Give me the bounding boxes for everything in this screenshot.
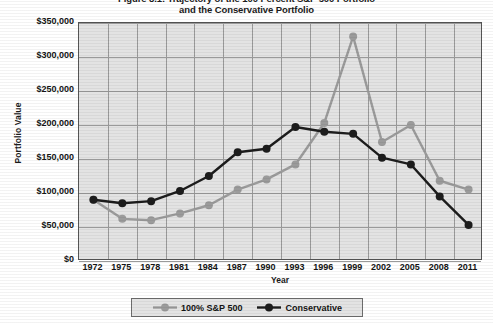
data-point: 100% S&P 500 1993: 142000 xyxy=(291,160,299,168)
chart-title-line-2: and the Conservative Portfolio xyxy=(0,4,493,15)
data-point: Conservative 1987: 160000 xyxy=(234,148,242,156)
y-axis-tick-label: $350,000 xyxy=(2,16,74,26)
chart-title: Figure 8.1: Trajectory of the 100 Percen… xyxy=(0,0,493,15)
data-point: 100% S&P 500 1990: 120000 xyxy=(263,175,271,183)
series-conservative: Conservative 1972: 90000Conservative 197… xyxy=(89,123,472,229)
data-point: 100% S&P 500 1996: 203000 xyxy=(320,119,328,127)
legend-swatch-icon xyxy=(256,302,282,313)
data-point: 100% S&P 500 1987: 105000 xyxy=(234,186,242,194)
series-100-s-p-500: 100% S&P 500 1972: 90000100% S&P 500 197… xyxy=(89,33,472,225)
series-line xyxy=(93,127,468,225)
data-point: Conservative 1999: 187000 xyxy=(349,130,357,138)
y-axis-tick-label: $150,000 xyxy=(2,152,74,162)
data-point: Conservative 2002: 152000 xyxy=(378,154,386,162)
data-point: 100% S&P 500 1975: 62000 xyxy=(118,215,126,223)
y-axis-tick-label: $300,000 xyxy=(2,50,74,60)
data-point: 100% S&P 500 1978: 60000 xyxy=(147,216,155,224)
data-point: Conservative 2008: 95000 xyxy=(436,192,444,200)
legend-label: 100% S&P 500 xyxy=(181,303,242,313)
data-series-layer: 100% S&P 500 1972: 90000100% S&P 500 197… xyxy=(79,23,483,261)
chart-figure: Figure 8.1: Trajectory of the 100 Percen… xyxy=(0,0,493,323)
y-axis-tick-label: $50,000 xyxy=(2,220,74,230)
data-point: Conservative 1990: 165000 xyxy=(263,145,271,153)
data-point: 100% S&P 500 1981: 70000 xyxy=(176,209,184,217)
data-point: Conservative 1996: 190000 xyxy=(320,128,328,136)
x-axis-title: Year xyxy=(78,275,482,285)
data-point: Conservative 1975: 85000 xyxy=(118,199,126,207)
data-point: 100% S&P 500 1984: 82000 xyxy=(205,201,213,209)
data-point: Conservative 2011: 53000 xyxy=(465,221,473,229)
legend-item[interactable]: Conservative xyxy=(256,302,342,313)
legend-swatch-icon xyxy=(152,302,178,313)
data-point: Conservative 1978: 88000 xyxy=(147,197,155,205)
data-point: 100% S&P 500 2011: 105000 xyxy=(465,186,473,194)
y-axis-tick-label: $250,000 xyxy=(2,84,74,94)
chart-legend: 100% S&P 500Conservative xyxy=(131,298,363,317)
plot-area: 100% S&P 500 1972: 90000100% S&P 500 197… xyxy=(78,22,482,260)
data-point: Conservative 1972: 90000 xyxy=(89,196,97,204)
x-axis-tick-label: 2011 xyxy=(448,262,488,272)
data-point: 100% S&P 500 2005: 200000 xyxy=(407,121,415,129)
y-axis-tick-label: $200,000 xyxy=(2,118,74,128)
data-point: 100% S&P 500 2002: 175000 xyxy=(378,138,386,146)
y-axis-tick-label: $100,000 xyxy=(2,186,74,196)
data-point: Conservative 1981: 103000 xyxy=(176,187,184,195)
data-point: Conservative 1984: 125000 xyxy=(205,172,213,180)
data-point: 100% S&P 500 1999: 330000 xyxy=(349,33,357,41)
data-point: 100% S&P 500 2008: 118000 xyxy=(436,177,444,185)
legend-item[interactable]: 100% S&P 500 xyxy=(152,302,242,313)
legend-label: Conservative xyxy=(285,303,342,313)
data-point: Conservative 2005: 142000 xyxy=(407,160,415,168)
y-axis-tick-label: $0 xyxy=(2,254,74,264)
data-point: Conservative 1993: 197000 xyxy=(291,123,299,131)
